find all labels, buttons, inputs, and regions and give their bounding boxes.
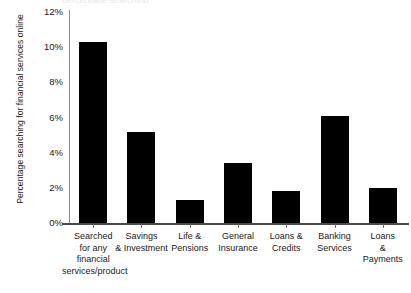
x-axis-tick-mark [141,224,142,228]
bar-chart-figure: percentage searching Percentage searchin… [0,0,411,293]
x-axis-tick-mark [383,224,384,228]
y-axis-tick-label: 2% [19,183,63,193]
y-axis-tick-label: 6% [19,113,63,123]
y-axis-tick-group: 0%2%4%6%8%10%12% [16,0,63,293]
y-axis-tick-label: 10% [19,42,63,52]
bar [272,191,300,223]
x-axis-category-label-line: services/product [62,266,124,278]
bar [127,132,155,223]
x-axis-category-label-line: financial [62,254,124,266]
bars-layer [69,12,407,223]
x-axis-tick-mark [238,224,239,228]
x-axis-tick-mark [190,224,191,228]
x-axis-tick-mark [93,224,94,228]
y-axis-tick-label: 8% [19,77,63,87]
bar [321,116,349,223]
bar [176,200,204,223]
bar [369,188,397,223]
x-axis-tick-mark [286,224,287,228]
clipped-title-remnant: percentage searching [62,0,242,3]
y-axis-tick-label: 4% [19,148,63,158]
x-axis-category-label-line: Loans [352,231,411,243]
x-axis-category-label-line: & [352,243,411,255]
bar [224,163,252,223]
x-axis-tick-mark [335,224,336,228]
x-axis-category-label: Loans&Payments [352,231,411,266]
x-axis-category-label-line: Payments [352,254,411,266]
bar [79,42,107,223]
y-axis-tick-label: 0% [19,218,63,228]
x-axis-line [62,223,409,225]
y-axis-tick-label: 12% [19,7,63,17]
